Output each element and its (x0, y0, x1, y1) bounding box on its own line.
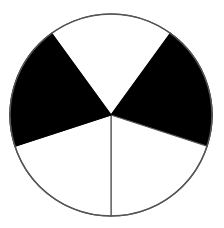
fraction-circle-diagram (0, 0, 224, 228)
